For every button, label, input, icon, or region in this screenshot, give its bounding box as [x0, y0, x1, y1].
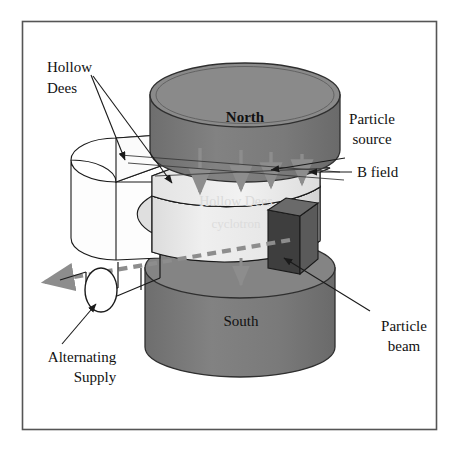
ac-source-symbol: [85, 268, 117, 312]
particle-source-label-line1: Particle: [349, 111, 395, 127]
cyclotron-diagram-svg: South: [0, 0, 458, 455]
svg-text:cyclotron: cyclotron: [211, 216, 261, 231]
south-label: South: [223, 313, 259, 329]
north-label: North: [226, 109, 265, 125]
alternating-supply-label-line1: Alternating: [48, 349, 117, 365]
svg-text:Hollow Dees: Hollow Dees: [199, 194, 273, 209]
alternating-supply-label-line2: Supply: [74, 369, 117, 385]
particle-beam-label-line2: beam: [388, 338, 421, 354]
hollow-dees-label-line1: Hollow: [47, 59, 92, 75]
particle-beam-label-line1: Particle: [381, 318, 427, 334]
hollow-dees-label-line2: Dees: [47, 80, 77, 96]
north-magnet: North: [150, 63, 340, 182]
particle-source-label-line2: source: [352, 131, 391, 147]
cyclotron-figure: Cyclotron diagram: [0, 0, 458, 455]
target-box: [268, 198, 318, 274]
b-field-label: B field: [357, 164, 399, 180]
